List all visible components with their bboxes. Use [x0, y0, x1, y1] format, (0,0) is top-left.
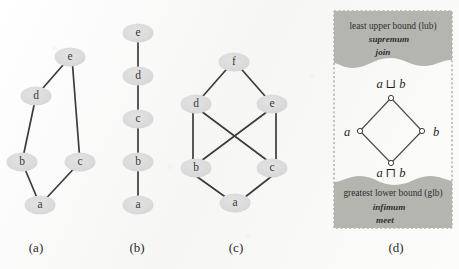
- panel-a: e d b c a (a): [7, 48, 96, 256]
- lattice-edge-left-meet: [360, 131, 391, 163]
- node-d-label: d: [135, 69, 141, 81]
- lattice-meet-label: a ⊓ b: [376, 166, 405, 180]
- node-e-label: e: [269, 97, 274, 109]
- node-c-label: c: [135, 112, 140, 124]
- lattice-diamond: a ⊔ b a b a ⊓ b: [344, 77, 439, 180]
- panel-b: e d c b a (b): [123, 24, 154, 256]
- lattice-vertex-left[interactable]: [357, 128, 362, 133]
- lub-banner-line2: supremum: [368, 34, 409, 44]
- edge-d-b: [22, 96, 36, 162]
- node-d-label: d: [33, 89, 39, 101]
- lattice-edge-right-meet: [391, 131, 422, 163]
- caption-c: (c): [229, 240, 243, 255]
- lattice-right-label: b: [433, 125, 439, 139]
- node-b-label: b: [193, 161, 199, 173]
- glb-banner-line3: meet: [376, 215, 394, 225]
- caption-d: (d): [388, 240, 403, 255]
- node-a-label: a: [135, 198, 140, 210]
- lub-banner-line1: least upper bound (lub): [349, 21, 436, 32]
- figure-svg: e d b c a (a) e: [0, 0, 459, 269]
- lattice-vertex-meet[interactable]: [388, 160, 393, 165]
- panel-c-edges: [193, 63, 276, 201]
- glb-banner-line2: infimum: [373, 202, 406, 212]
- node-e-label: e: [135, 26, 140, 38]
- node-c-label: c: [269, 161, 274, 173]
- glb-banner-line1: greatest lower bound (glb): [343, 188, 442, 199]
- panel-c: f d e b c a (c): [181, 53, 288, 256]
- figure-root: e d b c a (a) e: [0, 0, 459, 269]
- lub-banner-line3: join: [374, 47, 391, 57]
- edge-e-c: [72, 58, 80, 162]
- panel-c-nodes: f d e b c a: [181, 53, 288, 213]
- node-d-label: d: [193, 97, 199, 109]
- node-a-label: a: [37, 198, 42, 210]
- panel-d: least upper bound (lub) supremum join gr…: [334, 11, 452, 255]
- lattice-left-label: a: [344, 125, 350, 139]
- node-f-label: f: [232, 55, 236, 67]
- panel-a-edges: [22, 57, 80, 205]
- lattice-edge-right-join: [391, 98, 422, 131]
- node-e-label: e: [67, 50, 72, 62]
- node-a-label: a: [232, 196, 237, 208]
- panel-a-nodes: e d b c a: [7, 48, 96, 215]
- node-c-label: c: [77, 155, 82, 167]
- lattice-vertex-join[interactable]: [388, 95, 393, 100]
- caption-a: (a): [29, 240, 43, 255]
- lattice-edge-left-join: [360, 98, 391, 131]
- lattice-join-label: a ⊔ b: [376, 77, 405, 91]
- node-b-label: b: [135, 155, 141, 167]
- lattice-vertex-right[interactable]: [419, 128, 424, 133]
- caption-b: (b): [129, 240, 144, 255]
- node-b-label: b: [19, 155, 25, 167]
